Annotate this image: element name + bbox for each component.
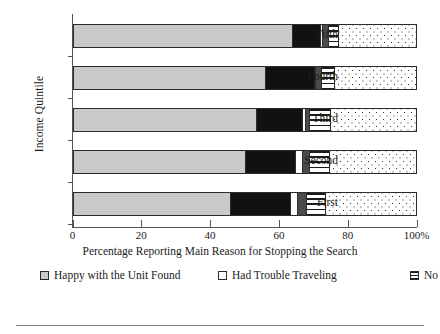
y-tick-label-third: Third — [218, 112, 338, 124]
plot-area: FifthFourthThirdSecondFirst — [73, 14, 417, 226]
legend-swatch-icon — [40, 271, 49, 280]
x-tick-mark — [279, 220, 280, 227]
legend-swatch-icon — [218, 271, 227, 280]
y-tick-mark — [68, 98, 73, 99]
legend-label: Happy with the Unit Found — [54, 269, 181, 281]
x-axis-line — [72, 227, 417, 228]
bar-segment-other — [329, 151, 416, 173]
x-tick-label-0: 0 — [70, 229, 76, 241]
legend-label: No Time to Search — [424, 269, 440, 281]
x-tick-mark — [141, 220, 142, 227]
x-tick-mark — [417, 220, 418, 227]
bar-segment-other — [338, 25, 416, 47]
stacked-bar-chart-figure: Income Quintile FifthFourthThirdSecondFi… — [0, 0, 440, 334]
y-tick-label-first: First — [218, 196, 338, 208]
legend-label: Had Trouble Traveling — [232, 269, 337, 281]
bar-segment-other — [325, 193, 416, 215]
x-tick-label-40: 40 — [205, 229, 216, 241]
legend-item: Happy with the Unit Found — [40, 267, 218, 283]
bar-segment-other — [330, 109, 416, 131]
x-tick-mark — [210, 220, 211, 227]
x-tick-mark — [348, 220, 349, 227]
y-tick-mark — [68, 182, 73, 183]
y-tick-label-fifth: Fifth — [218, 28, 338, 40]
legend-item: Had Trouble Traveling — [218, 267, 410, 283]
y-axis-title: Income Quintile — [33, 29, 45, 199]
x-tick-label-20: 20 — [136, 229, 147, 241]
bar-segment-happy — [74, 193, 231, 215]
x-tick-label-100: 100% — [404, 229, 430, 241]
legend-swatch-icon — [410, 271, 419, 280]
x-tick-label-80: 80 — [342, 229, 353, 241]
x-tick-label-60: 60 — [273, 229, 284, 241]
x-axis-title: Percentage Reporting Main Reason for Sto… — [0, 245, 440, 257]
chart-legend: Happy with the Unit FoundHad Trouble Tra… — [40, 267, 410, 283]
x-tick-mark — [73, 220, 74, 227]
y-tick-mark — [68, 56, 73, 57]
bar-segment-other — [334, 67, 415, 89]
y-tick-label-second: Second — [218, 154, 338, 166]
legend-item: No Time to Search — [410, 267, 440, 283]
y-tick-mark — [68, 140, 73, 141]
y-tick-label-fourth: Fourth — [218, 70, 338, 82]
bottom-rule-divider — [16, 325, 424, 326]
